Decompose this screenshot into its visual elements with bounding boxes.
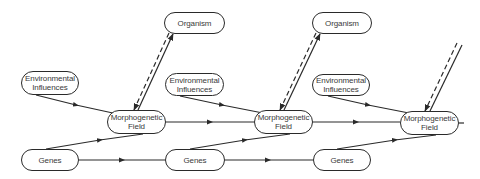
env-label-line2: Influences	[177, 85, 212, 94]
morph-label-line1: Morphogenetic	[111, 113, 163, 122]
env-label-line1: Environmental	[170, 76, 220, 85]
edge-genes3-morph3	[337, 135, 436, 149]
edge-organism2-morph2-dashed	[280, 33, 316, 110]
edge-env1-morph1	[36, 95, 122, 115]
env-label-line1: Environmental	[316, 76, 366, 85]
environmental-influences-node-1: Environmental Influences	[21, 71, 79, 95]
edge-morph1-organism1	[138, 34, 173, 110]
edge-organism1-morph1-dashed	[134, 33, 169, 110]
environmental-influences-node-2: Environmental Influences	[165, 73, 224, 96]
edge-morph3-up	[430, 45, 462, 111]
env-label-line2: Influences	[323, 85, 358, 94]
organism-node-2: Organism	[312, 12, 372, 34]
edge-env2-morph2	[180, 96, 268, 114]
edge-morph2-organism2	[284, 34, 320, 110]
morph-label-line2: Field	[128, 122, 145, 131]
organism-label: Organism	[178, 19, 212, 28]
morph-label-line1: Morphogenetic	[258, 113, 310, 122]
env-label-line2: Influences	[32, 83, 67, 92]
morphogenetic-field-node-3: Morphogenetic Field	[400, 111, 459, 135]
edge-genes2-morph2	[190, 134, 290, 149]
genes-label: Genes	[183, 156, 206, 165]
organism-node-1: Organism	[164, 12, 225, 34]
morph-label-line1: Morphogenetic	[404, 114, 456, 123]
genes-node-2: Genes	[165, 149, 225, 171]
morphogenetic-field-diagram: Organism Organism Organism Environmental…	[0, 0, 480, 179]
morphogenetic-field-node-2: Morphogenetic Field	[254, 110, 313, 134]
organism-label: Organism	[325, 19, 359, 28]
edge-up-morph3-dashed	[425, 43, 457, 111]
genes-node-3: Genes	[313, 149, 371, 171]
genes-label: Genes	[38, 156, 61, 165]
morph-label-line2: Field	[421, 123, 438, 132]
environmental-influences-node-3: Environmental Influences	[312, 74, 370, 96]
morph-label-line2: Field	[275, 122, 292, 131]
morphogenetic-field-node-1: Morphogenetic Field	[107, 110, 166, 134]
edge-env3-morph3	[328, 96, 414, 114]
edge-genes1-morph1	[46, 134, 143, 149]
genes-node-1: Genes	[21, 149, 79, 171]
genes-label: Genes	[330, 156, 353, 165]
env-label-line1: Environmental	[25, 74, 75, 83]
